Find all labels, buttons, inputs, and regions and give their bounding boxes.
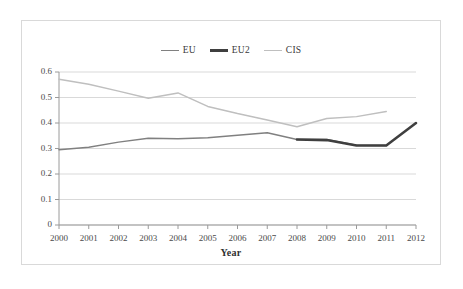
y-tick-label: 0.1 — [22, 194, 52, 204]
x-tick-label: 2009 — [311, 233, 343, 243]
series-line-cis — [59, 79, 386, 127]
x-tick-label: 2000 — [43, 233, 75, 243]
y-tick-label: 0.5 — [22, 92, 52, 102]
x-tick-label: 2003 — [132, 233, 164, 243]
x-tick-label: 2010 — [341, 233, 373, 243]
y-tick-label: 0.6 — [22, 66, 52, 76]
chart-container: EU EU2 CIS 00.10.20.30.40.50.6 200020012… — [21, 20, 441, 265]
x-tick-label: 2004 — [162, 233, 194, 243]
x-tick-label: 2005 — [192, 233, 224, 243]
x-tick-label: 2007 — [251, 233, 283, 243]
x-tick-label: 2002 — [103, 233, 135, 243]
y-tick-label: 0 — [22, 219, 52, 229]
x-tick-label: 2011 — [370, 233, 402, 243]
x-tick-label: 2012 — [400, 233, 432, 243]
x-tick-label: 2008 — [281, 233, 313, 243]
x-axis-title: Year — [22, 247, 440, 258]
series-line-eu2 — [297, 123, 416, 145]
plot-area: 00.10.20.30.40.50.6 20002001200220032004… — [22, 21, 442, 266]
y-tick-label: 0.4 — [22, 117, 52, 127]
x-tick-label: 2006 — [222, 233, 254, 243]
x-tick-label: 2001 — [73, 233, 105, 243]
y-tick-label: 0.3 — [22, 143, 52, 153]
y-tick-label: 0.2 — [22, 168, 52, 178]
chart-svg — [22, 21, 442, 266]
